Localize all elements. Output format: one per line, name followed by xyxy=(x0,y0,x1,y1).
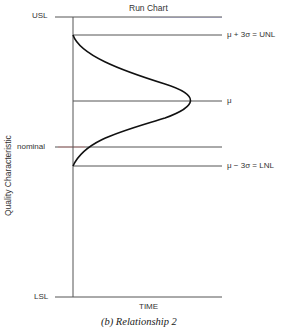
mu-label: μ xyxy=(227,97,232,105)
chart-title: Run Chart xyxy=(129,3,168,13)
x-axis-label: TIME xyxy=(139,303,158,311)
figure-caption: (b) Relationship 2 xyxy=(101,316,177,327)
lsl-label: LSL xyxy=(34,293,48,301)
nominal-label: nominal xyxy=(17,143,45,151)
unl-label: μ + 3σ = UNL xyxy=(227,31,275,39)
lnl-label: μ − 3σ = LNL xyxy=(227,162,274,170)
usl-label: USL xyxy=(32,12,48,20)
y-axis-label: Quality Characteristic xyxy=(3,135,13,216)
